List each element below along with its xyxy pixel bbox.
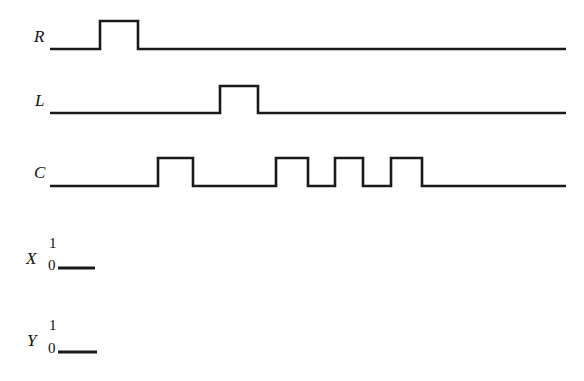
signal-label-r: R <box>34 28 44 45</box>
level-label-y-high: 1 <box>49 318 57 333</box>
waveform-l <box>50 86 566 113</box>
waveform-canvas <box>0 0 584 381</box>
waveform-r <box>50 21 566 49</box>
signal-label-c: C <box>34 164 45 181</box>
timing-diagram-figure: R L C X 1 0 Y 1 0 <box>0 0 584 381</box>
level-label-x-high: 1 <box>49 236 57 251</box>
signal-label-y: Y <box>27 332 36 349</box>
signal-label-l: L <box>35 92 44 109</box>
level-label-y-low: 0 <box>48 341 56 356</box>
waveform-c <box>50 158 566 186</box>
level-label-x-low: 0 <box>48 258 56 273</box>
signal-label-x: X <box>26 250 36 267</box>
